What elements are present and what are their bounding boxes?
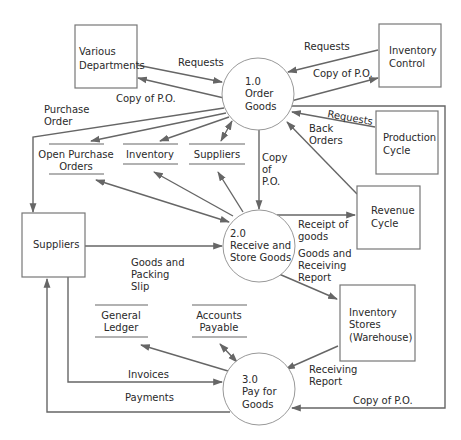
svg-text:Various: Various	[79, 46, 116, 57]
store-general-ledger: General Ledger	[95, 305, 148, 337]
svg-text:Cycle: Cycle	[371, 218, 398, 229]
label-requests-production: Requests	[327, 108, 374, 127]
flow-copy-po-to-inventory-control	[291, 78, 378, 101]
process-receive-store-goods: 2.0 Receive and Store Goods	[223, 210, 295, 282]
entity-revenue-cycle: Revenue Cycle	[357, 186, 420, 249]
svg-text:Store Goods: Store Goods	[230, 252, 291, 263]
svg-text:Inventory: Inventory	[389, 45, 437, 56]
svg-text:Suppliers: Suppliers	[33, 239, 79, 250]
flow-p2-open-po	[96, 180, 229, 222]
svg-text:Order: Order	[245, 88, 274, 99]
svg-text:Open Purchase: Open Purchase	[38, 149, 113, 160]
svg-text:Orders: Orders	[59, 161, 93, 172]
svg-text:3.0: 3.0	[242, 374, 258, 385]
svg-text:1.0: 1.0	[245, 76, 261, 87]
label-copy-po-inventory-control: Copy of P.O.	[313, 68, 373, 79]
entity-inventory-control: Inventory Control	[379, 24, 441, 87]
label-receipt-of-goods: Receipt ofgoods	[298, 219, 349, 242]
svg-text:Ledger: Ledger	[104, 322, 139, 333]
label-requests-departments: Requests	[178, 57, 224, 68]
entity-inventory-stores: Inventory Stores (Warehouse)	[340, 285, 415, 361]
label-payments: Payments	[125, 392, 174, 403]
flow-p1-to-open-po	[91, 113, 226, 141]
flow-p2-to-inventory	[154, 172, 233, 216]
label-requests-inventory-control: Requests	[304, 41, 350, 52]
entity-production-cycle: Production Cycle	[376, 111, 438, 174]
svg-text:Receive and: Receive and	[230, 240, 291, 251]
label-goods-packing-slip: Goods andPackingSlip	[131, 257, 185, 292]
svg-text:Goods: Goods	[242, 399, 274, 410]
store-accounts-payable: Accounts Payable	[192, 305, 247, 337]
label-receiving-report: ReceivingReport	[309, 364, 357, 387]
svg-text:2.0: 2.0	[230, 228, 246, 239]
flow-p1-to-inventory	[160, 117, 229, 141]
svg-text:Control: Control	[389, 58, 425, 69]
label-copy-po-departments: Copy of P.O.	[116, 93, 176, 104]
label-copy-po-p3: Copy of P.O.	[353, 395, 413, 406]
svg-text:Pay for: Pay for	[242, 386, 277, 397]
store-inventory: Inventory	[123, 144, 178, 164]
svg-text:General: General	[101, 310, 140, 321]
svg-text:Revenue: Revenue	[371, 205, 415, 216]
process-pay-for-goods: 3.0 Pay for Goods	[223, 353, 295, 425]
svg-text:(Warehouse): (Warehouse)	[349, 332, 412, 343]
svg-text:Goods: Goods	[245, 101, 277, 112]
svg-text:Suppliers: Suppliers	[194, 149, 240, 160]
svg-text:Payable: Payable	[199, 322, 238, 333]
label-back-orders: BackOrders	[309, 123, 343, 146]
svg-text:Inventory: Inventory	[126, 149, 174, 160]
label-goods-receiving-report: Goods andReceivingReport	[298, 248, 352, 283]
entity-various-departments: Various Departments	[75, 25, 145, 88]
flow-p3-accounts-payable	[220, 344, 237, 362]
label-invoices: Invoices	[128, 369, 169, 380]
svg-text:Cycle: Cycle	[383, 145, 410, 156]
store-suppliers: Suppliers	[189, 144, 245, 164]
svg-text:Stores: Stores	[349, 319, 381, 330]
svg-text:Accounts: Accounts	[196, 310, 242, 321]
svg-text:Inventory: Inventory	[349, 307, 397, 318]
flow-p1-suppliers-store	[221, 121, 232, 141]
process-order-goods: 1.0 Order Goods	[222, 58, 294, 130]
svg-text:Production: Production	[383, 132, 436, 143]
label-copy-po-p2: CopyofP.O.	[262, 152, 287, 187]
flow-p2-to-suppliers-store	[218, 172, 243, 212]
flow-p3-to-general-ledger	[141, 345, 228, 371]
data-flow-diagram: Various Departments Inventory Control Pr…	[0, 0, 461, 440]
svg-text:Departments: Departments	[79, 60, 145, 71]
store-open-purchase-orders: Open Purchase Orders	[38, 144, 113, 174]
entity-suppliers: Suppliers	[22, 213, 85, 277]
label-purchase-order: PurchaseOrder	[44, 104, 89, 127]
